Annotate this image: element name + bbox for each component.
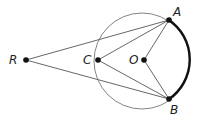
points	[23, 17, 172, 102]
geometry-diagram: R C O A B	[0, 0, 199, 119]
point-c	[95, 57, 101, 63]
point-r	[23, 57, 29, 63]
arc-ab	[169, 20, 190, 99]
point-a	[166, 17, 172, 23]
point-b	[166, 96, 172, 102]
label-a: A	[172, 5, 181, 19]
label-b: B	[170, 103, 178, 117]
label-c: C	[83, 53, 92, 67]
label-r: R	[9, 53, 17, 67]
label-o: O	[129, 53, 138, 67]
point-o	[141, 57, 147, 63]
